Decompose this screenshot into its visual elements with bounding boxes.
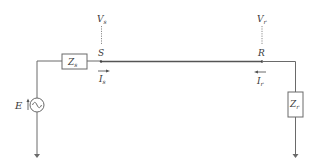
emf-label: E (14, 100, 23, 111)
is-arrowhead-icon (106, 70, 110, 73)
source-branch: E (14, 61, 62, 158)
receiving-branch: Zr (262, 62, 303, 159)
node-s-dot (100, 60, 102, 62)
sending-impedance: Zs (62, 54, 101, 69)
node-r-label: R (257, 48, 265, 58)
circuit-diagram: E Zs Vs S Is Vr R Ir Zr (0, 0, 320, 164)
vr-label: Vr (257, 14, 268, 25)
emf-arrowhead-icon (27, 99, 30, 103)
node-s-label: S (98, 48, 104, 58)
is-label: Is (98, 74, 106, 85)
ir-label: Ir (256, 76, 265, 87)
ir-arrowhead-icon (254, 71, 258, 74)
ground-icon-left (34, 154, 40, 158)
ground-icon-right (293, 154, 299, 158)
vs-label: Vs (97, 14, 107, 25)
